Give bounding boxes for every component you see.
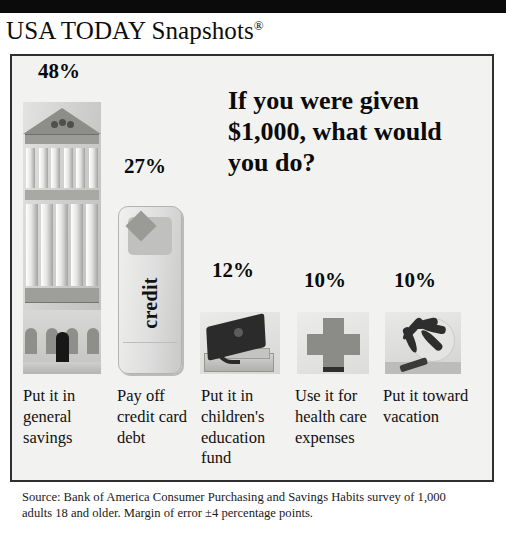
- category-label-general-savings: Put it in general savings: [23, 386, 107, 448]
- value-label-health-care: 10%: [304, 268, 346, 293]
- category-label-education-fund: Put it in children's education fund: [201, 386, 285, 469]
- chart-column-general-savings: 48%: [20, 56, 106, 480]
- chart-column-education-fund: 12% Put it in children's education fund: [198, 56, 284, 480]
- top-black-bar: [0, 0, 506, 13]
- value-label-general-savings: 48%: [38, 59, 80, 84]
- category-label-health-care: Use it for health care expenses: [295, 386, 375, 448]
- brand-title: USA TODAY Snapshots®: [6, 17, 264, 45]
- brand-title-text: USA TODAY Snapshots: [6, 17, 254, 44]
- value-label-credit-card-debt: 27%: [124, 154, 166, 179]
- medical-cross-icon: [297, 312, 369, 374]
- credit-card-icon: credit: [118, 206, 182, 374]
- source-note: Source: Bank of America Consumer Purchas…: [22, 489, 462, 521]
- category-label-credit-card-debt: Pay off credit card debt: [117, 386, 195, 448]
- credit-card-word: credit: [139, 278, 162, 329]
- graduation-cap-icon: [200, 312, 280, 374]
- registered-trademark-icon: ®: [254, 18, 264, 33]
- category-label-vacation: Put it toward vacation: [383, 386, 469, 428]
- palm-tree-icon: [385, 312, 461, 374]
- value-label-education-fund: 12%: [212, 258, 254, 283]
- value-label-vacation: 10%: [394, 268, 436, 293]
- snapshot-panel: If you were given $1,000, what would you…: [10, 54, 494, 482]
- chart-column-vacation: 10% Put it toward vacation: [378, 56, 470, 480]
- bank-building-icon: [23, 102, 101, 374]
- chart-column-credit-card-debt: 27% credit Pay off credit card debt: [114, 56, 192, 480]
- chart-column-health-care: 10% Use it for health care expenses: [292, 56, 374, 480]
